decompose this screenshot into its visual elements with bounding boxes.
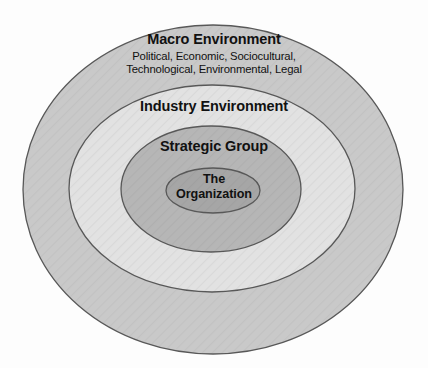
organization-ellipse <box>166 168 260 213</box>
nested-environment-diagram: Macro Environment Political, Economic, S… <box>0 0 428 368</box>
environment-ellipses-svg <box>0 0 428 368</box>
